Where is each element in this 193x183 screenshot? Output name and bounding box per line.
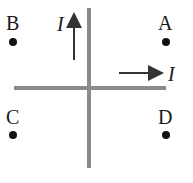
point-label-d: D	[158, 106, 172, 128]
crossed-wires-diagram: I I B A C D	[0, 0, 193, 183]
point-d	[162, 131, 170, 139]
current-label-horizontal: I	[167, 63, 176, 85]
point-b	[9, 38, 17, 46]
current-label-vertical: I	[56, 13, 65, 35]
point-label-a: A	[158, 12, 173, 34]
point-label-c: C	[6, 106, 19, 128]
point-a	[162, 38, 170, 46]
point-label-b: B	[6, 12, 19, 34]
point-c	[9, 131, 17, 139]
